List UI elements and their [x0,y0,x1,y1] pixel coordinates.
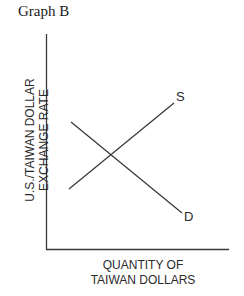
demand-label: D [184,209,193,224]
supply-curve [69,103,174,189]
x-axis-label-line2: TAIWAN DOLLARS [58,273,228,288]
y-axis-label-line2: EXCHANGE RATE [37,40,51,240]
x-axis-label-line1: QUANTITY OF [58,258,228,273]
demand-curve [71,122,182,213]
y-axis-label-line1: U.S./TAIWAN DOLLAR [23,40,37,240]
x-axis-label: QUANTITY OF TAIWAN DOLLARS [58,258,228,288]
y-axis-label: U.S./TAIWAN DOLLAR EXCHANGE RATE [23,40,51,240]
supply-label: S [176,89,185,104]
